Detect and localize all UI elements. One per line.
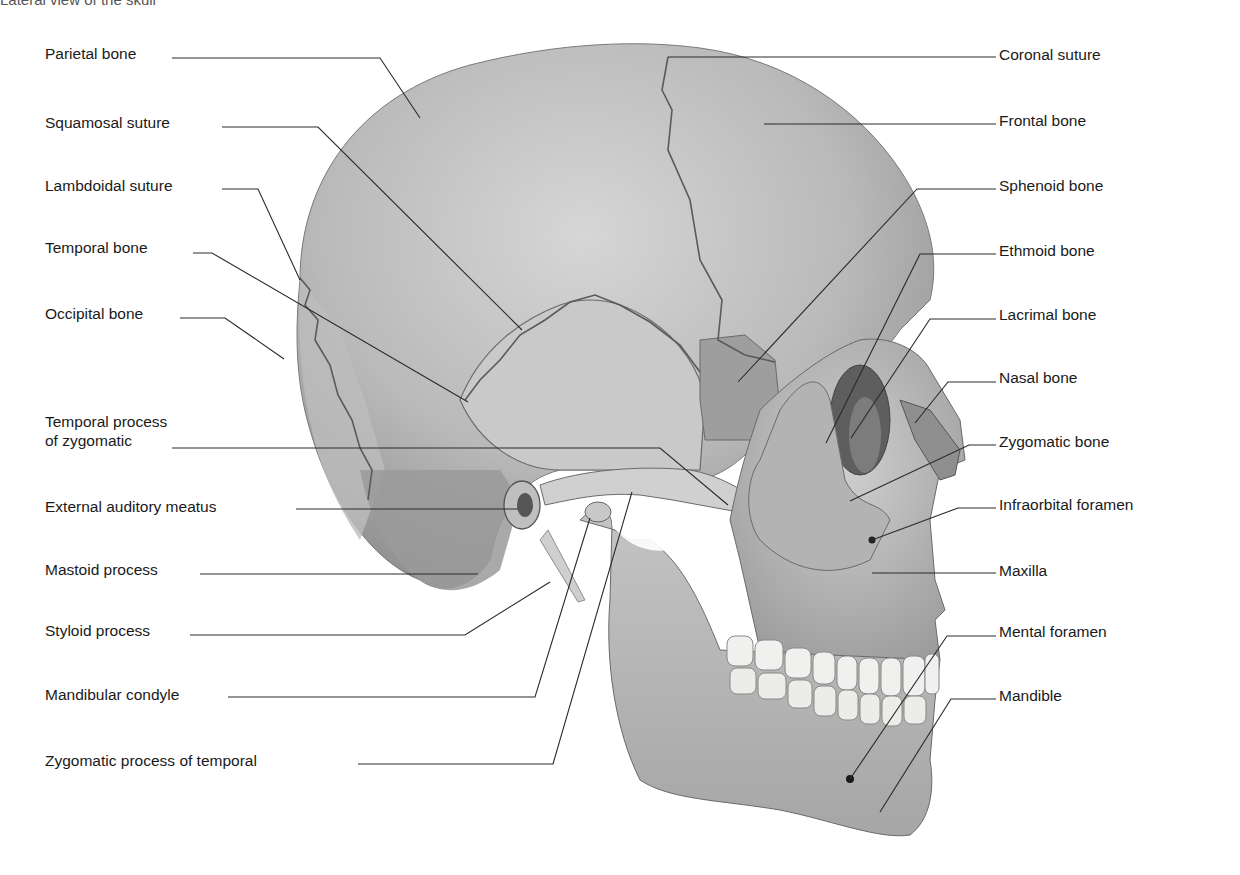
label-maxilla: Maxilla bbox=[999, 561, 1047, 580]
label-ethmoid-bone: Ethmoid bone bbox=[999, 241, 1095, 260]
label-external-auditory-meatus: External auditory meatus bbox=[45, 497, 216, 516]
label-zygomatic-process-of-temporal: Zygomatic process of temporal bbox=[45, 751, 257, 770]
diagram-stage: Lateral view of the skull bbox=[0, 0, 1240, 875]
leader-lambdoidal-suture bbox=[222, 189, 300, 280]
label-occipital-bone: Occipital bone bbox=[45, 304, 143, 323]
leader-styloid-process bbox=[190, 582, 550, 635]
label-squamosal-suture: Squamosal suture bbox=[45, 113, 170, 132]
label-mandibular-condyle: Mandibular condyle bbox=[45, 685, 179, 704]
label-lacrimal-bone: Lacrimal bone bbox=[999, 305, 1096, 324]
label-styloid-process: Styloid process bbox=[45, 621, 150, 640]
label-nasal-bone: Nasal bone bbox=[999, 368, 1077, 387]
label-coronal-suture: Coronal suture bbox=[999, 45, 1101, 64]
label-mental-foramen: Mental foramen bbox=[999, 622, 1107, 641]
label-mastoid-process: Mastoid process bbox=[45, 560, 158, 579]
lower-temporal-region bbox=[360, 470, 520, 590]
leader-occipital-bone bbox=[180, 318, 284, 359]
label-parietal-bone: Parietal bone bbox=[45, 44, 136, 63]
label-zygomatic-bone: Zygomatic bone bbox=[999, 432, 1109, 451]
mandibular-condyle-shape bbox=[585, 502, 611, 522]
zygomatic-arch bbox=[540, 468, 760, 515]
label-temporal-process-of-zygomatic: Temporal processof zygomatic bbox=[45, 412, 167, 450]
label-lambdoidal-suture: Lambdoidal suture bbox=[45, 176, 173, 195]
label-temporal-bone: Temporal bone bbox=[45, 238, 148, 257]
label-temporal-process-of-zygomatic-line2: of zygomatic bbox=[45, 432, 132, 449]
styloid-process-shape bbox=[540, 530, 585, 602]
label-infraorbital-foramen: Infraorbital foramen bbox=[999, 495, 1133, 514]
orbit-inner bbox=[849, 397, 881, 473]
label-mandible: Mandible bbox=[999, 686, 1062, 705]
label-sphenoid-bone: Sphenoid bone bbox=[999, 176, 1103, 195]
label-frontal-bone: Frontal bone bbox=[999, 111, 1086, 130]
